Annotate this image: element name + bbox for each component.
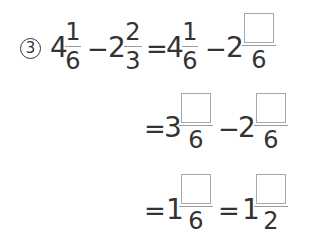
answer-blank-box[interactable] (256, 93, 286, 123)
answer-blank-box[interactable] (181, 174, 211, 204)
fraction: 6 (179, 93, 213, 152)
numerator: 1 (65, 20, 81, 44)
fraction: 1 6 (65, 20, 81, 73)
denominator: 6 (254, 128, 288, 152)
numerator: 1 (182, 20, 198, 44)
fraction: 1 6 (182, 20, 198, 73)
minus-sign: − (87, 36, 109, 62)
answer-blank-box[interactable] (244, 13, 274, 43)
equals-sign: = (144, 198, 166, 224)
numerator: 2 (124, 20, 142, 44)
denominator: 6 (65, 49, 81, 73)
denominator: 6 (179, 209, 213, 233)
denominator: 2 (254, 209, 288, 233)
denominator: 3 (124, 49, 142, 73)
denominator: 6 (182, 49, 198, 73)
answer-blank-box[interactable] (181, 93, 211, 123)
fraction: 6 (254, 93, 288, 152)
fraction: 6 (179, 174, 213, 233)
fraction: 2 3 (124, 20, 142, 73)
problem-number-badge: 3 (20, 38, 41, 59)
answer-blank-box[interactable] (256, 174, 286, 204)
equals-sign: = (218, 198, 240, 224)
equals-sign: = (146, 36, 168, 62)
problem-number: 3 (26, 39, 36, 57)
minus-sign: − (205, 36, 227, 62)
minus-sign: − (218, 116, 240, 142)
denominator: 6 (179, 128, 213, 152)
denominator: 6 (242, 48, 276, 72)
fraction: 2 (254, 174, 288, 233)
fraction: 6 (242, 13, 276, 72)
equals-sign: = (144, 116, 166, 142)
